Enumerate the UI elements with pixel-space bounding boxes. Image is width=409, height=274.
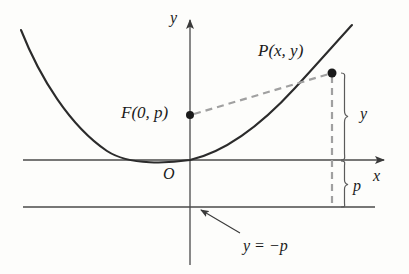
focus-dot [186, 111, 194, 119]
x-axis-label: x [373, 168, 380, 184]
brace-p [341, 161, 348, 207]
focal-distance-segment [194, 74, 329, 114]
point-p-label: P(x, y) [258, 42, 303, 59]
brace-y-label: y [360, 106, 367, 122]
y-axis-label: y [170, 10, 177, 26]
point-p-dot [328, 69, 337, 78]
figure-canvas [0, 0, 409, 274]
brace-y [341, 73, 348, 160]
directrix-leader-line [201, 210, 240, 233]
directrix-label: y = −p [243, 238, 288, 254]
focus-label: F(0, p) [121, 104, 168, 121]
brace-p-label: p [353, 178, 361, 194]
parabola-figure: P(x, y) F(0, p) O x y y p y = −p [0, 0, 409, 274]
origin-label: O [163, 166, 175, 182]
